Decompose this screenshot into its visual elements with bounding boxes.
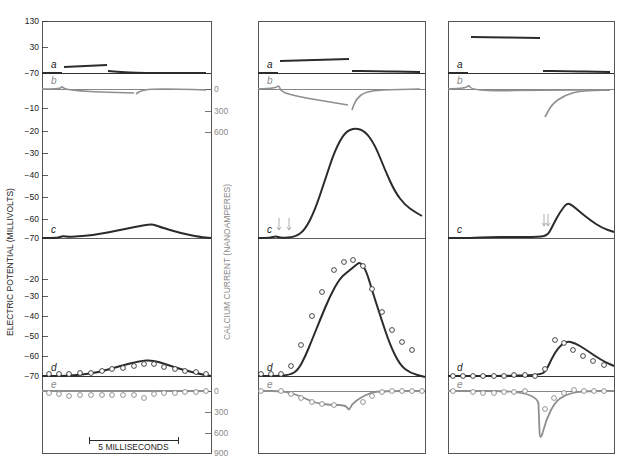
panel-3-point-d	[553, 338, 558, 343]
panel-2-point-d	[351, 258, 356, 263]
row-label-a: a	[51, 59, 57, 70]
down-arrow-icon	[277, 218, 281, 230]
panel-1-point-e	[110, 393, 115, 398]
panel-2-point-e	[361, 400, 366, 405]
left-axis-ticks: 13030−70−10−20−30−40−50−60−70−20−30−40−5…	[25, 16, 48, 381]
left-tick-label: −40	[25, 311, 40, 321]
right-axis-title: CALCIUM CURRENT (NANOAMPERES)	[222, 184, 232, 340]
panel-2-point-d	[370, 287, 375, 292]
panel-3-point-e	[492, 391, 497, 396]
panel-2-point-e	[299, 396, 304, 401]
panel-1-point-e	[142, 396, 147, 401]
panel-1-point-e	[162, 391, 167, 396]
panel-2-point-e	[380, 390, 385, 395]
left-tick-label: −20	[25, 274, 40, 284]
data-points	[47, 258, 607, 412]
panel-2-point-d	[259, 372, 264, 377]
panel-1-point-d	[89, 371, 94, 376]
panel-3-point-e	[512, 390, 517, 395]
row-label-a: a	[457, 59, 463, 70]
panel-3-trace-b	[545, 90, 610, 117]
right-tick-label: 0	[214, 84, 219, 94]
left-tick-label: −30	[25, 148, 40, 158]
panel-3-point-d	[571, 348, 576, 353]
panel-3-point-e	[502, 390, 507, 395]
right-tick-label: 600	[214, 127, 228, 137]
panel-2-point-d	[289, 364, 294, 369]
down-arrow-icon	[287, 218, 291, 230]
left-axis-title: ELECTRIC POTENTIAL (MILLIVOLTS)	[5, 188, 15, 336]
figure-canvas: 13030−70−10−20−30−40−50−60−70−20−30−40−5…	[0, 0, 626, 466]
left-tick-label: −70	[25, 233, 40, 243]
scale-bar: 5 MILLISECONDS	[89, 437, 179, 452]
panel-3-fit-d	[448, 342, 614, 376]
stimulus-arrows	[277, 214, 550, 230]
panel-2-trace-b	[258, 86, 348, 105]
panel-3-point-e	[523, 389, 528, 394]
panel-2-point-d	[279, 372, 284, 377]
panel-1-point-d	[194, 370, 199, 375]
panel-3-point-d	[492, 374, 497, 379]
panel-2-point-d	[380, 310, 385, 315]
row-label-d: d	[267, 362, 273, 373]
panel-1-trace-b	[136, 89, 206, 94]
panel-2-point-e	[400, 389, 405, 394]
left-tick-label: −60	[25, 214, 40, 224]
panel-1-point-d	[132, 364, 137, 369]
left-tick-label: −60	[25, 351, 40, 361]
panel-1-point-e	[194, 390, 199, 395]
left-tick-label: 130	[25, 16, 39, 26]
row-label-d: d	[457, 362, 463, 373]
panel-1-point-e	[78, 393, 83, 398]
panel-3-trace-a	[543, 71, 610, 72]
traces	[42, 37, 614, 437]
right-tick-label: 0	[214, 386, 219, 396]
left-tick-label: −70	[25, 371, 40, 381]
panel-1-point-e	[173, 391, 178, 396]
left-tick-label: −50	[25, 192, 40, 202]
down-arrow-icon	[542, 214, 546, 226]
panel-2-fit-e	[258, 391, 425, 409]
panel-1-point-e	[152, 392, 157, 397]
panel-3-point-d	[581, 354, 586, 359]
left-tick-label: −20	[25, 126, 40, 136]
panel-3-point-d	[512, 373, 517, 378]
panel-3-fit-e	[448, 391, 614, 437]
panel-2-point-e	[310, 400, 315, 405]
left-tick-label: −10	[25, 103, 40, 113]
panel-2-point-d	[332, 268, 337, 273]
panel-2-point-d	[310, 314, 315, 319]
panel-1-point-d	[67, 372, 72, 377]
row-label-e: e	[51, 379, 57, 390]
row-label-c: c	[267, 224, 272, 235]
row-label-b: b	[457, 75, 463, 86]
panel-1-point-e	[57, 392, 62, 397]
panel-2-point-d	[342, 260, 347, 265]
panel-3-point-e	[592, 389, 597, 394]
panel-2-point-d	[400, 340, 405, 345]
row-label-e: e	[457, 379, 463, 390]
panel-3-point-d	[562, 341, 567, 346]
panel-3-trace-c	[448, 204, 614, 238]
panel-2-point-d	[320, 290, 325, 295]
panel-3-trace-a	[471, 37, 540, 38]
panel-3-point-d	[602, 363, 607, 368]
panel-3-point-e	[543, 407, 548, 412]
panel-1-point-d	[162, 365, 167, 370]
panel-2-point-e	[320, 402, 325, 407]
panel-2-point-d	[299, 343, 304, 348]
panel-3-trace-b	[448, 86, 610, 91]
row-label-b: b	[267, 75, 273, 86]
row-label-a: a	[267, 59, 273, 70]
panel-1-point-d	[121, 366, 126, 371]
right-tick-label: 300	[214, 106, 228, 116]
panel-1-point-e	[47, 391, 52, 396]
row-label-d: d	[51, 362, 57, 373]
panel-3-point-d	[471, 374, 476, 379]
panel-1-point-e	[204, 389, 209, 394]
panel-1-point-d	[204, 372, 209, 377]
right-tick-label: 300	[214, 407, 228, 417]
panel-3-point-e	[471, 390, 476, 395]
panel-2-fit-d	[258, 263, 425, 377]
panel-3-point-e	[552, 396, 557, 401]
